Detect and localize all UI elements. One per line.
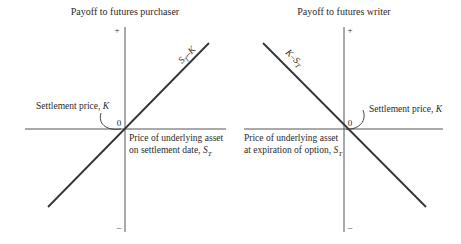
left-panel-title: Payoff to futures purchaser: [71, 6, 180, 17]
left-plus-sign: +: [114, 25, 119, 35]
right-panel-title: Payoff to futures writer: [297, 6, 391, 17]
left-payoff-line: [48, 43, 209, 207]
left-minus-sign: –: [116, 222, 122, 232]
left-origin-label: 0: [117, 118, 122, 128]
right-settlement-label: Settlement price, K: [369, 104, 443, 114]
right-panel-writer: Payoff to futures writer + – K–ST 0 Sett…: [244, 6, 443, 232]
futures-payoff-diagram: Payoff to futures purchaser + – ST–K 0 S…: [0, 0, 461, 244]
right-plus-sign: +: [347, 25, 352, 35]
right-x-axis-label-line1: Price of underlying asset: [244, 133, 339, 143]
svg-text:K–ST: K–ST: [281, 47, 305, 71]
left-panel-purchaser: Payoff to futures purchaser + – ST–K 0 S…: [25, 6, 226, 232]
right-origin-label: 0: [348, 118, 353, 128]
right-line-label: K–ST: [281, 47, 305, 71]
left-x-axis-label-line1: Price of underlying asset: [129, 133, 224, 143]
right-minus-sign: –: [347, 222, 353, 232]
left-settlement-label: Settlement price, K: [36, 101, 110, 111]
right-x-axis-label-line2: at expiration of option, ST: [244, 145, 343, 158]
left-x-axis-label-line2: on settlement date, ST: [129, 145, 213, 158]
